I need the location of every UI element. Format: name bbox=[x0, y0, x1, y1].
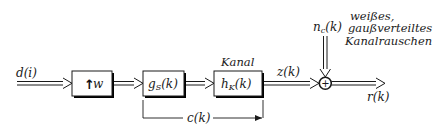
svg-text:Kanalrauschen: Kanalrauschen bbox=[344, 34, 432, 48]
output-arrow bbox=[332, 78, 386, 89]
channel-output-label: z(k) bbox=[276, 65, 300, 79]
channel-output-arrow bbox=[264, 78, 319, 89]
noise-description: weißes, gaußverteiltes Kanalrauschen bbox=[344, 9, 432, 48]
channel-block: hK(k) bbox=[214, 71, 264, 98]
input-signal-label: d(i) bbox=[16, 66, 37, 80]
channel-caption: Kanal bbox=[220, 55, 255, 69]
transmit-filter-label: gS(k) bbox=[148, 77, 178, 92]
noise-arrow bbox=[320, 36, 331, 77]
transmit-filter-block: gS(k) bbox=[143, 71, 186, 98]
block-diagram: d(i) ↑ w gS(k) Kanal hK(k) z(k) nc(k) bbox=[0, 0, 441, 129]
noise-signal-label: nc(k) bbox=[313, 20, 342, 35]
output-signal-label: r(k) bbox=[367, 90, 390, 104]
arrow-upsampler-to-filter bbox=[114, 78, 143, 89]
upsampler-block: ↑ w bbox=[72, 71, 114, 98]
plus-icon: + bbox=[321, 78, 329, 89]
channel-label: hK(k) bbox=[221, 77, 252, 92]
summing-junction: + bbox=[319, 77, 331, 89]
combined-response-label: c(k) bbox=[187, 111, 211, 125]
arrow-filter-to-channel bbox=[186, 78, 214, 89]
upsample-factor-label: w bbox=[93, 77, 104, 91]
svg-text:gaußverteiltes: gaußverteiltes bbox=[348, 21, 432, 35]
